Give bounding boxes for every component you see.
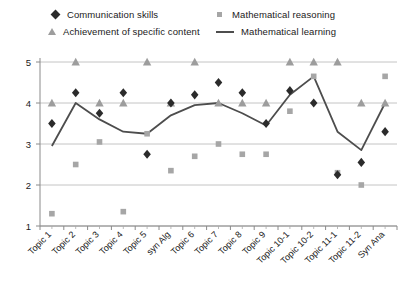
line-marker-icon [216, 31, 234, 33]
chart-legend: Communication skills Mathematical reason… [0, 0, 403, 52]
legend-item-mathematical-reasoning: Mathematical reasoning [216, 9, 335, 20]
legend-item-achievement-of-specific-content: Achievement of specific content [48, 26, 200, 37]
svg-text:5: 5 [26, 57, 31, 68]
svg-text:Topic 8: Topic 8 [216, 229, 243, 256]
series-communication-skills-points [48, 78, 389, 179]
svg-text:Syn Ana: Syn Ana [356, 229, 387, 260]
svg-text:Topic 1: Topic 1 [26, 229, 53, 256]
legend-label: Achievement of specific content [63, 26, 200, 37]
svg-text:Topic 5: Topic 5 [121, 229, 148, 256]
svg-text:Topic 4: Topic 4 [97, 229, 124, 256]
legend-item-mathematical-learning: Mathematical learning [216, 26, 336, 37]
square-marker-icon [217, 12, 222, 17]
series-mathematical-reasoning-points [49, 74, 388, 217]
legend-label: Mathematical learning [241, 26, 336, 37]
svg-text:2: 2 [26, 180, 31, 191]
svg-text:3: 3 [26, 139, 31, 150]
svg-text:syn Alg: syn Alg [145, 229, 173, 257]
legend-item-communication-skills: Communication skills [52, 9, 158, 20]
legend-label: Communication skills [67, 9, 158, 20]
svg-text:1: 1 [26, 221, 31, 232]
x-axis-category-labels: Topic 1Topic 2Topic 3Topic 4Topic 5syn A… [26, 229, 386, 265]
svg-text:Topic 2: Topic 2 [50, 229, 77, 256]
diamond-marker-icon [51, 10, 61, 20]
chart-container: Communication skills Mathematical reason… [0, 0, 403, 293]
svg-text:Topic 3: Topic 3 [74, 229, 101, 256]
y-axis-tick-labels: 12345 [26, 57, 40, 232]
legend-label: Mathematical reasoning [232, 9, 335, 20]
svg-text:Topic 7: Topic 7 [193, 229, 220, 256]
svg-text:Topic 6: Topic 6 [169, 229, 196, 256]
triangle-marker-icon [48, 28, 56, 35]
svg-text:4: 4 [26, 98, 31, 109]
